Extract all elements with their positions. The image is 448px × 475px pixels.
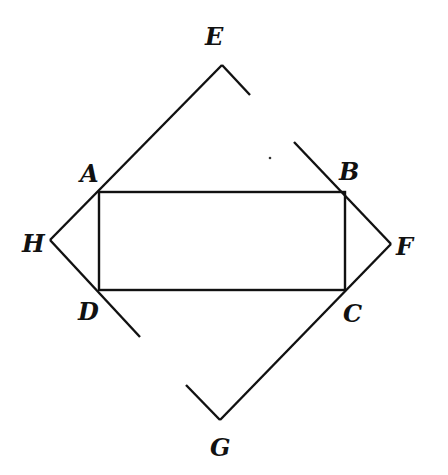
line-e-arm: [222, 65, 250, 95]
label-h: H: [21, 229, 46, 258]
geometry-figure: E A B H F D C G: [0, 0, 448, 475]
label-d: D: [77, 297, 99, 326]
line-g-arm: [186, 385, 220, 420]
label-a: A: [78, 159, 99, 188]
label-g: G: [210, 433, 231, 462]
label-c: C: [343, 299, 362, 328]
rectangle-abcd: [99, 192, 345, 290]
line-h-to-e: [50, 65, 222, 240]
diagram-canvas: E A B H F D C G: [0, 0, 448, 475]
label-b: B: [338, 157, 359, 186]
stray-dot: [269, 157, 272, 160]
label-f: F: [395, 232, 415, 261]
line-f-to-g: [220, 244, 391, 420]
label-e: E: [204, 22, 224, 51]
